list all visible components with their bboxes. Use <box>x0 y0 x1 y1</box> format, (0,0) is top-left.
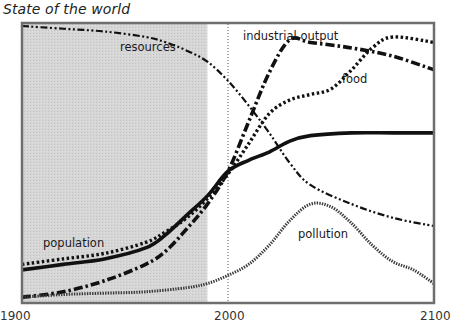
chart-canvas: resources industrial output food populat… <box>0 0 450 324</box>
historical-shaded-region <box>22 23 207 303</box>
x-tick-2100: 2100 <box>420 309 450 323</box>
label-population: population <box>43 236 104 250</box>
x-tick-2000: 2000 <box>214 309 245 323</box>
label-food: food <box>342 72 367 86</box>
x-tick-1900: 1900 <box>0 309 31 323</box>
label-industrial-output: industrial output <box>243 29 339 43</box>
label-pollution: pollution <box>298 227 348 241</box>
label-resources: resources <box>120 40 176 54</box>
